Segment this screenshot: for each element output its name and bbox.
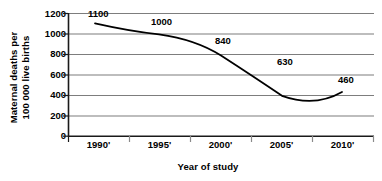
line-chart: Maternal deaths per 100 000 live births …: [0, 0, 382, 181]
data-label-840: 840: [215, 35, 231, 46]
data-label-1100: 1100: [88, 8, 109, 19]
x-axis-title: Year of study: [0, 161, 382, 172]
data-label-1000: 1000: [151, 16, 172, 27]
data-label-630: 630: [277, 56, 293, 67]
chart-plot-area: [0, 0, 382, 181]
data-label-460: 460: [338, 74, 354, 85]
gridlines: [68, 14, 374, 117]
y-axis-ticks: [63, 14, 68, 137]
